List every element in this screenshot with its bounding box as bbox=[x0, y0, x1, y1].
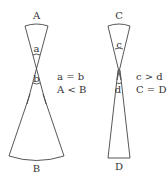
angle-a-arc bbox=[33, 54, 40, 55]
left-lower-side-right bbox=[43, 94, 64, 156]
label-b: b bbox=[33, 73, 39, 84]
relation-a-equals-b: a = b bbox=[57, 71, 84, 82]
label-B: B bbox=[33, 163, 40, 174]
vertical-angles-diagram: A a b B a = b A < B C c d D c > d C = D bbox=[0, 0, 168, 178]
label-d: d bbox=[115, 84, 122, 95]
label-a: a bbox=[34, 43, 40, 54]
right-upper-side-right bbox=[117, 26, 130, 80]
left-upper-side-right bbox=[27, 26, 48, 104]
left-upper-arc bbox=[25, 24, 48, 26]
relation-c-greater-d: c > d bbox=[136, 71, 163, 82]
left-lower-arc bbox=[9, 156, 64, 161]
right-figure: C c d D c > d C = D bbox=[108, 10, 166, 172]
label-c: c bbox=[116, 39, 122, 50]
label-A: A bbox=[32, 10, 41, 21]
left-figure: A a b B a = b A < B bbox=[9, 10, 86, 174]
left-lower-side-left bbox=[9, 94, 30, 156]
right-upper-arc bbox=[108, 24, 130, 26]
relation-A-less-B: A < B bbox=[56, 84, 86, 95]
left-upper-side-left bbox=[25, 26, 46, 104]
label-C: C bbox=[115, 10, 123, 21]
right-lower-side-right bbox=[120, 70, 130, 158]
relation-C-equals-D: C = D bbox=[136, 84, 166, 95]
label-D: D bbox=[115, 161, 123, 172]
